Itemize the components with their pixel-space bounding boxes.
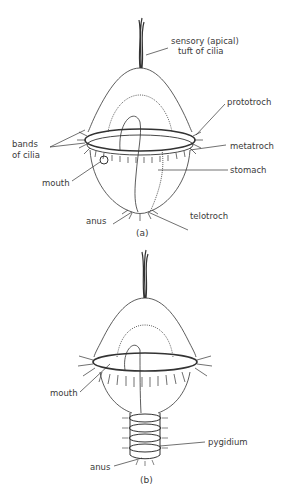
label-anus-b: anus [90, 462, 110, 472]
label-mouth-b: mouth [50, 388, 78, 398]
label-prototroch: prototroch [227, 97, 271, 107]
label-metatroch: metatroch [230, 141, 274, 151]
label-stomach: stomach [230, 165, 267, 175]
label-telotroch: telotroch [190, 211, 228, 221]
apical-tuft-b [142, 250, 148, 298]
label-apical-tuft-line2: tuft of cilia [178, 46, 223, 56]
label-bands-line2: of cilia [12, 150, 40, 160]
label-anus-a: anus [86, 216, 106, 226]
label-apical-tuft-line1: sensory (apical) [171, 36, 239, 46]
label-pygidium: pygidium [208, 437, 248, 447]
label-bands-line1: bands [12, 139, 38, 149]
caption-a: (a) [136, 228, 149, 238]
caption-b: (b) [140, 475, 153, 485]
trochophore-diagram [0, 0, 281, 498]
label-mouth-a: mouth [42, 178, 70, 188]
apical-tuft-a [139, 18, 144, 68]
